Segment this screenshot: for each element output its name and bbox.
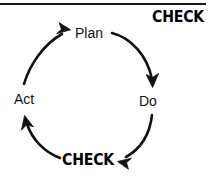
node-label-do: Do <box>139 94 157 108</box>
arrow-plan-to-do <box>112 33 159 88</box>
pdca-cycle-diagram: Plan Do Act CHECK CHECK <box>0 0 210 178</box>
arrow-act-to-plan <box>24 23 71 84</box>
arrow-do-to-check <box>118 115 153 169</box>
node-label-act: Act <box>14 92 34 106</box>
node-label-plan: Plan <box>75 26 103 40</box>
node-label-check: CHECK <box>62 152 114 167</box>
arrow-check-to-act <box>21 116 60 159</box>
header-title-check: CHECK <box>152 9 204 24</box>
